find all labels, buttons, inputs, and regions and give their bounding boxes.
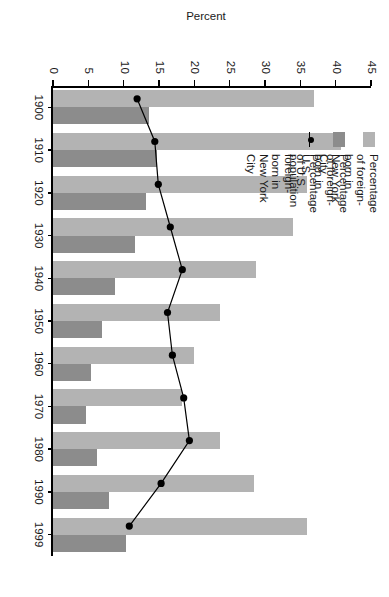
data-point-marker: [126, 523, 133, 530]
line-path-share-of-us-foreign-born-in-nyc: [129, 99, 189, 526]
x-axis-tick: [48, 448, 53, 449]
dark-gray-swatch: [333, 132, 345, 147]
data-point-marker: [151, 138, 158, 145]
x-axis-tick: [48, 320, 53, 321]
y-axis-tick-label: 0: [49, 0, 59, 74]
y-axis-tick-label: 5: [84, 0, 94, 74]
y-axis-tick-label: 35: [296, 0, 306, 74]
data-point-marker: [158, 480, 165, 487]
line-dot-marker-icon: [303, 132, 316, 147]
chart-page: 051015202530354045 Percent 1900191019201…: [0, 0, 389, 597]
y-axis-title: Percent: [146, 10, 266, 22]
x-axis-tick: [48, 235, 53, 236]
data-point-marker: [155, 181, 162, 188]
x-axis-tick: [48, 534, 53, 535]
x-axis-tick: [48, 192, 53, 193]
data-point-marker: [167, 223, 174, 230]
x-axis-tick: [48, 149, 53, 150]
data-point-marker: [180, 394, 187, 401]
y-axis-tick-label: 10: [120, 0, 130, 74]
y-axis-tick-label: 40: [332, 0, 342, 74]
rotated-figure-wrapper: 051015202530354045 Percent 1900191019201…: [0, 0, 389, 597]
x-axis-tick: [48, 363, 53, 364]
x-axis-tick: [48, 491, 53, 492]
legend-item-label: Percentage of U.S. foreign- born in New …: [245, 154, 320, 213]
chart-figure: 051015202530354045 Percent 1900191019201…: [0, 0, 389, 597]
y-axis-tick-label: 45: [367, 0, 377, 74]
x-axis-tick: [48, 406, 53, 407]
data-point-marker: [186, 437, 193, 444]
data-point-marker: [134, 95, 141, 102]
light-gray-swatch: [363, 132, 375, 147]
data-point-marker: [164, 309, 171, 316]
data-point-marker: [169, 352, 176, 359]
data-point-marker: [179, 266, 186, 273]
x-axis-tick: [48, 107, 53, 108]
x-axis-tick: [48, 278, 53, 279]
x-axis-tick-label: 1999: [33, 509, 45, 561]
